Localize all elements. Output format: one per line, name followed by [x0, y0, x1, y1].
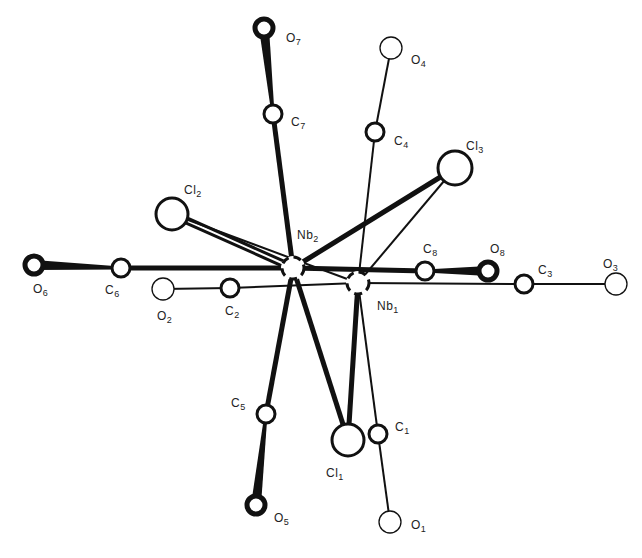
- element-symbol: O: [274, 511, 284, 525]
- atom-layer: [25, 19, 627, 533]
- atom-label-c4: C4: [394, 135, 409, 150]
- atom-c7: [264, 105, 282, 123]
- atom-index: 4: [421, 59, 427, 69]
- element-symbol: C: [394, 134, 403, 148]
- atom-c6: [112, 259, 130, 277]
- atom-o5: [247, 496, 265, 514]
- element-symbol: O: [411, 53, 421, 67]
- bond-c4-o4: [375, 48, 391, 132]
- bond-nb1-cl2: [172, 214, 358, 283]
- atom-cl3: [438, 151, 472, 185]
- atom-o2: [152, 278, 174, 300]
- atom-cl2: [156, 198, 188, 230]
- element-symbol: C: [423, 242, 432, 256]
- atom-index: 5: [284, 517, 290, 527]
- atom-o3: [605, 273, 627, 295]
- element-symbol: Cl: [184, 183, 196, 197]
- atom-o1: [379, 511, 401, 533]
- element-symbol: C: [225, 304, 234, 318]
- atom-c8: [416, 262, 434, 280]
- bond-nb2-c7: [273, 114, 293, 268]
- atom-index: 2: [313, 234, 319, 244]
- atom-index: 6: [43, 288, 49, 298]
- atom-index: 3: [478, 145, 484, 155]
- atom-index: 7: [300, 121, 306, 131]
- atom-c1: [369, 425, 387, 443]
- atom-label-c1: C1: [395, 421, 410, 436]
- bond-nb1-cl3: [358, 168, 455, 283]
- atom-index: 5: [240, 402, 246, 412]
- atom-cl1: [332, 424, 364, 456]
- atom-c2: [221, 279, 239, 297]
- atom-index: 2: [196, 189, 202, 199]
- atom-label-nb2: Nb2: [297, 229, 319, 244]
- bond-nb2-cl2: [172, 214, 293, 268]
- molecular-structure-diagram: Nb1Nb2Cl1Cl2Cl3C1C2C3C4C5C6C7C8O1O2O3O4O…: [0, 0, 642, 558]
- element-symbol: C: [538, 263, 547, 277]
- atom-label-cl3: Cl3: [466, 140, 484, 155]
- bond-nb1-c4: [358, 132, 375, 283]
- atom-index: 2: [234, 310, 240, 320]
- atom-label-o6: O6: [33, 283, 48, 298]
- element-symbol: Nb: [377, 299, 393, 313]
- bond-c5-o5: [251, 414, 267, 506]
- atom-label-cl1: Cl1: [326, 467, 344, 482]
- atom-index: 3: [547, 269, 553, 279]
- atom-label-c8: C8: [423, 243, 438, 258]
- element-symbol: Cl: [466, 139, 478, 153]
- element-symbol: O: [603, 257, 613, 271]
- element-symbol: O: [157, 309, 167, 323]
- atom-index: 8: [500, 248, 506, 258]
- atom-index: 1: [421, 524, 427, 534]
- element-symbol: O: [286, 31, 296, 45]
- bond-nb1-c1: [358, 283, 378, 434]
- atom-label-cl2: Cl2: [184, 184, 202, 199]
- atom-c5: [257, 405, 275, 423]
- atom-index: 1: [338, 472, 344, 482]
- atom-label-o3: O3: [603, 258, 618, 273]
- bond-nb2-c5: [266, 268, 293, 414]
- bond-c1-o1: [378, 434, 390, 522]
- atom-label-o2: O2: [157, 310, 172, 325]
- element-symbol: O: [411, 518, 421, 532]
- element-symbol: Cl: [326, 466, 338, 480]
- atom-label-o5: O5: [274, 512, 289, 527]
- atom-c3: [515, 275, 533, 293]
- atom-label-o7: O7: [286, 32, 301, 47]
- element-symbol: C: [105, 283, 114, 297]
- atom-label-o1: O1: [411, 519, 426, 534]
- atom-c4: [366, 123, 384, 141]
- atom-label-o4: O4: [411, 54, 426, 69]
- atom-o8: [479, 262, 497, 280]
- bond-c7-o7: [259, 27, 274, 114]
- element-symbol: O: [490, 242, 500, 256]
- atom-index: 8: [432, 248, 438, 258]
- atom-index: 3: [613, 263, 619, 273]
- element-symbol: C: [231, 396, 240, 410]
- element-symbol: O: [33, 282, 43, 296]
- atom-o6: [25, 256, 43, 274]
- atom-index: 4: [403, 140, 409, 150]
- atom-label-c3: C3: [538, 264, 553, 279]
- element-symbol: Nb: [297, 228, 313, 242]
- bond-c6-o6: [34, 260, 121, 270]
- atom-label-c5: C5: [231, 397, 246, 412]
- atom-o4: [380, 37, 402, 59]
- element-symbol: C: [395, 420, 404, 434]
- atom-label-c2: C2: [225, 305, 240, 320]
- atom-index: 2: [167, 315, 173, 325]
- bond-nb2-cl1: [293, 268, 348, 440]
- atom-label-nb1: Nb1: [377, 300, 399, 315]
- atom-label-c7: C7: [291, 116, 306, 131]
- atom-index: 7: [296, 37, 302, 47]
- atom-label-o8: O8: [490, 243, 505, 258]
- atom-index: 6: [114, 289, 120, 299]
- bond-nb1-cl1: [348, 283, 358, 440]
- element-symbol: C: [291, 115, 300, 129]
- atom-nb2: [281, 256, 305, 280]
- atom-index: 1: [404, 426, 410, 436]
- atom-index: 1: [393, 305, 399, 315]
- atom-label-c6: C6: [105, 284, 120, 299]
- atom-nb1: [346, 271, 370, 295]
- bond-nb1-c2: [230, 283, 358, 288]
